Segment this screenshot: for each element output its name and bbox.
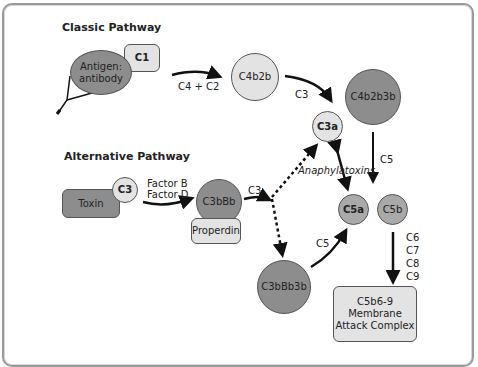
mac-label-line2: Membrane xyxy=(348,308,402,320)
classic-pathway-heading: Classic Pathway xyxy=(62,21,161,34)
node-c4b2b: C4b2b xyxy=(231,53,279,101)
node-c3bbb-label: C3bBb xyxy=(203,196,236,208)
node-c5a-label: C5a xyxy=(343,204,364,216)
label-c6: C6 xyxy=(406,232,419,244)
node-antigen-antibody: Antigen: antibody xyxy=(70,50,132,95)
node-c3: C3 xyxy=(112,177,138,203)
arrow-c3-alt xyxy=(244,197,268,199)
label-c5-classic: C5 xyxy=(380,154,393,166)
antibody-label: antibody xyxy=(79,73,123,85)
node-c3bbb3b: C3bBb3b xyxy=(257,260,311,314)
label-c3-alt: C3 xyxy=(248,185,261,197)
label-c5-alt: C5 xyxy=(316,238,329,250)
node-c5b-label: C5b xyxy=(383,204,403,216)
node-c3-label: C3 xyxy=(118,184,132,196)
node-toxin: Toxin xyxy=(62,189,120,218)
node-c5a: C5a xyxy=(338,194,369,225)
mac-label-line1: C5b6-9 xyxy=(357,296,393,308)
node-c5b: C5b xyxy=(377,194,408,225)
label-c8: C8 xyxy=(406,258,419,270)
node-c3a: C3a xyxy=(312,111,343,142)
antigen-label: Antigen: xyxy=(80,61,122,73)
label-c7: C7 xyxy=(406,245,419,257)
node-membrane-attack-complex: C5b6-9 Membrane Attack Complex xyxy=(333,286,417,342)
node-c3bbb3b-label: C3bBb3b xyxy=(261,281,307,293)
label-c4-c2: C4 + C2 xyxy=(178,81,219,93)
label-factor-d: Factor D xyxy=(147,189,189,201)
node-properdin-label: Properdin xyxy=(192,225,240,237)
node-c3a-label: C3a xyxy=(317,121,338,133)
alternative-pathway-heading: Alternative Pathway xyxy=(64,150,190,163)
node-c4b2b-label: C4b2b xyxy=(239,71,271,83)
node-c1-label: C1 xyxy=(135,52,149,64)
node-c4b2b3b: C4b2b3b xyxy=(345,69,401,125)
mac-label-line3: Attack Complex xyxy=(336,320,415,332)
node-c4b2b3b-label: C4b2b3b xyxy=(350,91,395,103)
arrow-dotted-c3bbb3b xyxy=(272,199,282,253)
node-toxin-label: Toxin xyxy=(78,198,103,210)
label-c9: C9 xyxy=(406,271,419,283)
label-c3-classic: C3 xyxy=(295,89,308,101)
label-anaphylatoxins: Anaphylatoxins xyxy=(298,165,375,177)
arrow-c4c2 xyxy=(172,72,218,76)
node-properdin: Properdin xyxy=(191,218,241,244)
